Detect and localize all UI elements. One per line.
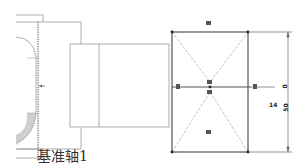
datum-axis-label: 基准轴1 bbox=[37, 148, 88, 164]
constraint-glyphs[interactable] bbox=[176, 21, 257, 134]
coincident-constraint-center-2-icon[interactable] bbox=[207, 90, 212, 94]
coincident-constraint-center-1-icon[interactable] bbox=[207, 80, 212, 84]
dimension-horizontal-offset[interactable]: 14 bbox=[269, 101, 277, 108]
horizontal-constraint-bottom-icon[interactable] bbox=[206, 130, 211, 134]
horizontal-constraint-top-icon[interactable] bbox=[206, 21, 211, 25]
vertical-constraint-left-icon[interactable] bbox=[176, 84, 180, 89]
cad-viewport[interactable] bbox=[0, 0, 302, 166]
dimension-vertical-height[interactable]: 50 bbox=[282, 103, 289, 111]
curved-surface bbox=[16, 37, 38, 145]
middle-block bbox=[70, 44, 169, 127]
vertical-constraint-right-icon[interactable] bbox=[253, 84, 257, 89]
datum-axis[interactable] bbox=[38, 22, 45, 160]
dimension-lines[interactable] bbox=[248, 32, 292, 152]
dimension-vertical-offset[interactable]: 0 bbox=[281, 84, 288, 88]
